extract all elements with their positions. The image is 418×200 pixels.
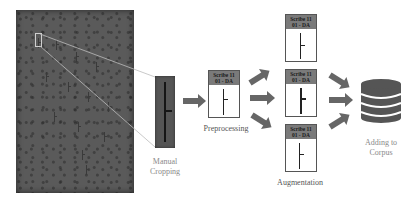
arrow-right-icon xyxy=(183,98,199,104)
card-subtitle: 01 - DA xyxy=(286,77,316,83)
card-glyph xyxy=(286,84,316,116)
stage-label-augmentation: Augmentation xyxy=(268,178,332,188)
database-icon xyxy=(360,78,402,124)
glyph-stroke xyxy=(164,82,166,142)
card-header: Scribe 11 01 - DA xyxy=(286,125,316,139)
card-subtitle: 01 - DA xyxy=(286,132,316,138)
card-header: Scribe 11 01 - DA xyxy=(286,70,316,84)
augmentation-card-3: Scribe 11 01 - DA xyxy=(285,124,317,172)
cropped-glyph-thumbnail xyxy=(155,76,175,148)
card-glyph xyxy=(209,85,239,117)
preprocessing-card: Scribe 11 01 - DA xyxy=(208,70,240,118)
stage-label-adding-to-corpus: Adding to Corpus xyxy=(352,138,410,158)
arrow-right-icon xyxy=(250,95,268,101)
augmentation-card-2: Scribe 11 01 - DA xyxy=(285,69,317,117)
arrow-right-icon xyxy=(329,97,346,103)
card-subtitle: 01 - DA xyxy=(209,78,239,84)
glyph-tick xyxy=(166,110,172,112)
label-line: Corpus xyxy=(352,148,410,158)
card-subtitle: 01 - DA xyxy=(286,22,316,28)
label-line: Adding to xyxy=(352,138,410,148)
label-line: Manual xyxy=(140,157,190,167)
card-header: Scribe 11 01 - DA xyxy=(209,71,239,85)
augmentation-card-1: Scribe 11 01 - DA xyxy=(285,14,317,62)
card-glyph xyxy=(286,139,316,171)
label-line: Cropping xyxy=(140,167,190,177)
stage-label-preprocessing: Preprocessing xyxy=(196,124,256,134)
card-glyph xyxy=(286,29,316,61)
stage-label-manual-cropping: Manual Cropping xyxy=(140,157,190,177)
card-header: Scribe 11 01 - DA xyxy=(286,15,316,29)
